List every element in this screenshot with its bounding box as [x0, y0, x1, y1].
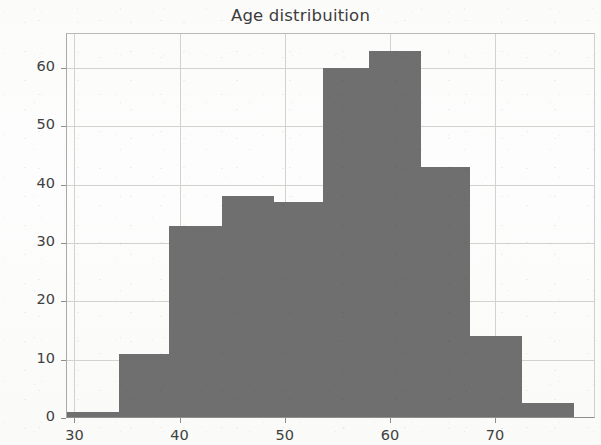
- y-tick-mark: [61, 418, 66, 419]
- y-tick-label: 10: [13, 350, 55, 366]
- y-tick-label: 30: [13, 233, 55, 249]
- y-tick-mark: [61, 243, 66, 244]
- x-tick-label: 30: [54, 427, 94, 443]
- x-tick-label: 60: [370, 427, 410, 443]
- x-tick-label: 70: [475, 427, 515, 443]
- x-tick-mark: [74, 418, 75, 423]
- plot-area: [66, 33, 595, 418]
- x-tick-mark: [495, 418, 496, 423]
- plot-frame: [66, 33, 595, 418]
- y-tick-label: 20: [13, 291, 55, 307]
- x-tick-label: 50: [265, 427, 305, 443]
- x-tick-mark: [285, 418, 286, 423]
- y-tick-mark: [61, 360, 66, 361]
- y-tick-mark: [61, 68, 66, 69]
- x-tick-mark: [180, 418, 181, 423]
- chart-figure: Age distribuition 0102030405060 30405060…: [0, 0, 601, 445]
- y-tick-label: 0: [13, 408, 55, 424]
- y-tick-mark: [61, 126, 66, 127]
- x-tick-label: 40: [160, 427, 200, 443]
- chart-title: Age distribuition: [0, 6, 601, 25]
- x-tick-mark: [390, 418, 391, 423]
- y-tick-mark: [61, 301, 66, 302]
- y-tick-label: 60: [13, 58, 55, 74]
- y-tick-label: 40: [13, 175, 55, 191]
- y-tick-label: 50: [13, 116, 55, 132]
- y-tick-mark: [61, 185, 66, 186]
